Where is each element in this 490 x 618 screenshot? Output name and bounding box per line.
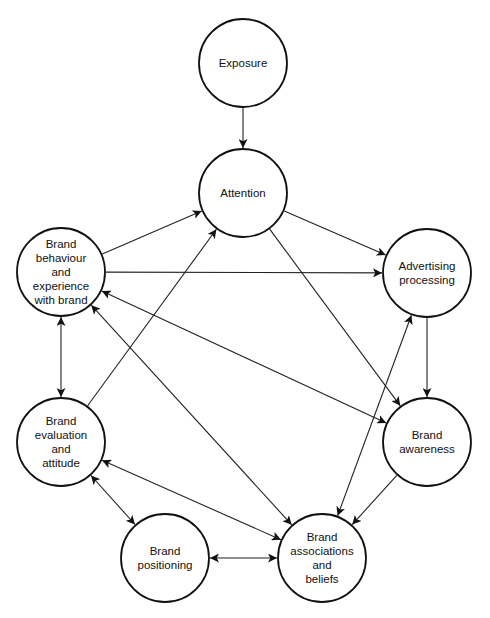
nodes-layer: ExposureAttentionBrandbehaviourandexperi… [17, 19, 471, 602]
node-label: and [312, 559, 331, 571]
edge-attention-to-advertising [284, 211, 385, 255]
node-label: processing [399, 274, 455, 286]
node-circle [383, 398, 471, 486]
node-label: associations [290, 545, 354, 557]
node-label: positioning [138, 559, 193, 571]
node-label: Attention [220, 187, 265, 199]
node-label: and [51, 443, 70, 455]
edge-awareness-to-behaviour [102, 291, 386, 423]
edge-behaviour-to-advertising [106, 272, 382, 273]
node-label: Brand [46, 238, 77, 250]
edge-associations-to-behaviour [91, 305, 291, 525]
edge-evaluation-to-attention [88, 229, 217, 405]
node-advertising: Advertisingprocessing [383, 229, 471, 317]
node-positioning: Brandpositioning [121, 514, 209, 602]
node-circle [121, 514, 209, 602]
node-label: Brand [150, 545, 181, 557]
node-awareness: Brandawareness [383, 398, 471, 486]
edge-awareness-to-associations [352, 475, 397, 524]
node-attention: Attention [199, 149, 287, 237]
node-label: and [51, 266, 70, 278]
node-behaviour: Brandbehaviourandexperiencewith brand [17, 228, 105, 316]
node-associations: Brandassociationsandbeliefs [278, 514, 366, 602]
advertising-effects-diagram: ExposureAttentionBrandbehaviourandexperi… [0, 0, 490, 618]
node-label: beliefs [305, 573, 338, 585]
node-exposure: Exposure [199, 19, 287, 107]
node-label: Brand [46, 415, 77, 427]
node-label: Exposure [219, 57, 268, 69]
node-label: attitude [42, 457, 80, 469]
edge-behaviour-to-attention [102, 211, 201, 254]
node-label: awareness [399, 443, 455, 455]
edge-evaluation-to-positioning [91, 476, 135, 525]
node-label: evaluation [35, 429, 87, 441]
node-evaluation: Brandevaluationandattitude [17, 398, 105, 486]
node-label: experience [33, 280, 89, 292]
node-label: with brand [33, 294, 87, 306]
node-circle [278, 514, 366, 602]
node-circle [383, 229, 471, 317]
node-label: Brand [412, 429, 443, 441]
node-label: behaviour [36, 252, 87, 264]
node-circle [17, 398, 105, 486]
edge-attention-to-awareness [270, 229, 401, 406]
node-label: Brand [307, 531, 338, 543]
node-label: Advertising [399, 260, 456, 272]
